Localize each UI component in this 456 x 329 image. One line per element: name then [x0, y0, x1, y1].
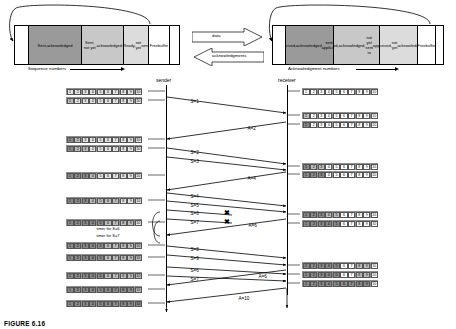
sender-window-cell: 1: [67, 137, 74, 143]
sender-window-cell: 4: [89, 146, 96, 152]
receiver-window-cell: 10: [371, 164, 378, 170]
sender-window-cell: 7: [112, 173, 119, 179]
receiver-window-cell: 4: [325, 221, 332, 227]
receiver-window-cell: 2: [310, 122, 317, 128]
sender-window-cell: 7: [112, 287, 119, 293]
lost-packet-marker-s6: ✖: [224, 209, 230, 216]
sender-window-cell: 1: [67, 89, 74, 95]
receiver-window-cell: 3: [318, 113, 325, 119]
sender-window-cell: 1: [67, 98, 74, 104]
sender-window-cell: 2: [74, 301, 81, 307]
message-label-m4: S=3: [190, 159, 199, 164]
receiver-window-cell: 5: [333, 172, 340, 178]
receiver-window-cell: 9: [363, 172, 370, 178]
receiver-window-cell: 1: [303, 281, 310, 287]
sender-buffer-segment-0: [15, 26, 29, 64]
message-label-m7: S=5: [190, 203, 199, 208]
sender-window-cell: 4: [89, 243, 96, 249]
receiver-window-cell: 3: [318, 281, 325, 287]
data-channel-label: data: [212, 33, 220, 38]
receiver-window-cell: 10: [371, 172, 378, 178]
sender-window-cell: 2: [74, 137, 81, 143]
sender-window-cell: 6: [104, 255, 111, 261]
receiver-window-cell: 7: [348, 172, 355, 178]
sender-window-cell: 4: [89, 98, 96, 104]
sender-buffer-segment-2: Sent, not yetacknowledged: [82, 26, 124, 64]
sender-window-cell: 9: [127, 137, 134, 143]
sender-window-cell: 4: [89, 287, 96, 293]
receiver-window-cell: 7: [348, 113, 355, 119]
sender-window-cell: 4: [89, 273, 96, 279]
receiver-window-strip: 12345678910: [302, 121, 378, 128]
sender-window-strip: 12345678910: [66, 136, 142, 143]
receiver-window-cell: 9: [363, 164, 370, 170]
sender-window-cell: 10: [135, 198, 142, 204]
message-label-m3: S=2: [190, 150, 199, 155]
sender-window-cell: 5: [97, 198, 104, 204]
sender-window-cell: 5: [97, 243, 104, 249]
sender-window-cell: 8: [120, 243, 127, 249]
sender-window-cell: 4: [89, 255, 96, 261]
receiver-window-cell: 1: [303, 221, 310, 227]
sender-window-strip: 12345678910: [66, 219, 142, 226]
figure-caption: FIGURE 6.16: [4, 320, 45, 327]
sender-window-cell: 2: [74, 220, 81, 226]
receiver-window-strip: 12345678910: [302, 211, 378, 218]
receiver-window-cell: 8: [356, 221, 363, 227]
receiver-axis-label: Acknowledgment numbers: [288, 66, 340, 71]
sender-window-cell: 9: [127, 146, 134, 152]
receiver-window-cell: 6: [340, 281, 347, 287]
sender-window-cell: 10: [135, 146, 142, 152]
sender-window-cell: 1: [67, 273, 74, 279]
sender-window-cell: 2: [74, 98, 81, 104]
receiver-window-cell: 2: [310, 212, 317, 218]
receiver-window-cell: 10: [371, 263, 378, 269]
sender-window-cell: 3: [82, 89, 89, 95]
sender-window-strip: 12345678910: [66, 272, 142, 279]
receiver-buffer-segment-5: [436, 26, 443, 64]
receiver-window-cell: 5: [333, 164, 340, 170]
receiver-window-cell: 9: [363, 281, 370, 287]
sender-window-cell: 3: [82, 98, 89, 104]
receiver-window-cell: 5: [333, 212, 340, 218]
sender-window-cell: 6: [104, 198, 111, 204]
sender-window-cell: 8: [120, 287, 127, 293]
receiver-lifeline: [287, 85, 288, 295]
sender-window-cell: 5: [97, 273, 104, 279]
receiver-window-cell: 4: [325, 281, 332, 287]
sender-window-cell: 8: [120, 255, 127, 261]
receiver-lifeline-label: receiver: [278, 77, 296, 83]
receiver-window-cell: 6: [340, 172, 347, 178]
receiver-buffer-diagram: Received,acknowledgedsent to application…: [272, 25, 444, 65]
sender-window-cell: 3: [82, 220, 89, 226]
receiver-window-cell: 3: [318, 212, 325, 218]
sender-window-cell: 1: [67, 146, 74, 152]
message-label-m9: S=7: [190, 220, 199, 225]
sender-window-cell: 6: [104, 98, 111, 104]
receiver-window-cell: 7: [348, 212, 355, 218]
receiver-window-cell: 10: [371, 89, 378, 95]
sender-window-strip: 12345678910: [66, 145, 142, 152]
message-label-m10: A=6: [248, 223, 257, 228]
timer-label-s7: timer for S=7: [96, 233, 120, 238]
receiver-window-cell: 2: [310, 89, 317, 95]
sender-window-strip: 12345678910: [66, 197, 142, 204]
receiver-window-cell: 7: [348, 89, 355, 95]
receiver-window-cell: 5: [333, 221, 340, 227]
receiver-window-strip: 12345678910: [302, 220, 378, 227]
receiver-buffer-segment-2: Received,acknowledged,not yet sent toapp…: [334, 26, 380, 64]
receiver-window-cell: 6: [340, 122, 347, 128]
sender-window-cell: 1: [67, 198, 74, 204]
sender-window-cell: 1: [67, 220, 74, 226]
receiver-window-cell: 10: [371, 272, 378, 278]
message-label-m6: S=4: [190, 194, 199, 199]
sender-window-cell: 7: [112, 146, 119, 152]
sender-window-strip: 12345678910: [66, 97, 142, 104]
message-label-m12: S=9: [190, 256, 199, 261]
message-label-m5: A=4: [247, 176, 256, 181]
receiver-window-cell: 5: [333, 122, 340, 128]
sender-window-cell: 9: [127, 287, 134, 293]
sender-window-cell: 6: [104, 301, 111, 307]
sender-window-cell: 10: [135, 173, 142, 179]
sender-window-cell: 3: [82, 273, 89, 279]
